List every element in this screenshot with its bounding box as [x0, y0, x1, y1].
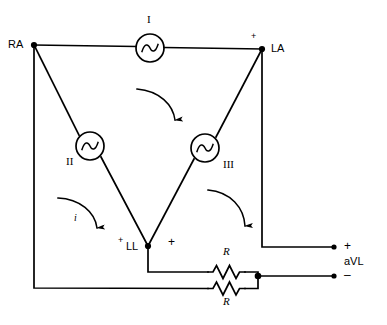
polarity-plus-la: + [251, 32, 256, 41]
source-label-1: I [147, 14, 151, 25]
node-dot-ll [145, 243, 151, 249]
node-dot-group [31, 42, 337, 279]
node-label-ll: LL [126, 241, 138, 252]
terminal-dot-minus [331, 273, 336, 278]
current-label-i: i [74, 213, 77, 223]
wire-la-to-output-plus [262, 49, 334, 247]
wire-source3-to-la [216, 49, 262, 137]
node-dot-la [259, 46, 265, 52]
resistor-bottom-symbol [208, 282, 245, 295]
arrow-center [137, 89, 175, 120]
wire-ra-to-resistor-bottom [34, 45, 208, 289]
polarity-plus-ll-left: + [118, 236, 123, 245]
circuit-diagram: RA LA + I II III i + LL + R R + – aVL [0, 0, 387, 325]
node-dot-ra [31, 42, 37, 48]
output-polarity-plus: + [344, 240, 351, 252]
polarity-plus-ll-right: + [168, 236, 175, 248]
wire-ra-to-source1 [34, 45, 136, 47]
node-label-la: LA [271, 43, 284, 54]
source-label-3: III [223, 159, 234, 170]
source-label-2: II [66, 156, 73, 167]
terminal-dot-plus [331, 244, 336, 249]
resistor-label-top: R [223, 246, 230, 257]
wire-group [34, 34, 334, 295]
circuit-schematic-canvas [0, 0, 387, 325]
node-label-ra: RA [8, 39, 23, 50]
resistor-top-symbol [208, 266, 245, 279]
source-1-sine-icon [142, 45, 158, 52]
wire-ll-to-resistor-top [148, 246, 208, 272]
wire-source1-to-la [164, 48, 262, 50]
output-label-avl: aVL [344, 256, 364, 267]
arrow-left-current [58, 198, 97, 228]
source-3-sine-icon [197, 145, 213, 152]
resistor-label-bottom: R [223, 296, 230, 307]
wire-ll-to-source3 [148, 159, 194, 246]
arrow-right [208, 190, 245, 226]
source-2-sine-icon [82, 143, 98, 150]
output-polarity-minus: – [344, 269, 351, 281]
node-dot-resistor-junction [255, 273, 262, 280]
wire-ra-to-source2 [34, 45, 79, 135]
wire-source2-to-ll [101, 157, 148, 246]
